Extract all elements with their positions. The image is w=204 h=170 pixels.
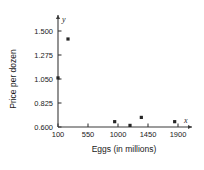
axes xyxy=(56,15,192,129)
x-axis-variable-label: x xyxy=(183,116,188,125)
y-tick-label: 0.825 xyxy=(34,99,53,108)
data-point xyxy=(66,37,69,40)
x-axis-title: Eggs (in millions) xyxy=(92,144,157,154)
x-tick-label: 1900 xyxy=(170,130,187,139)
data-points xyxy=(56,37,176,127)
data-point xyxy=(140,116,143,119)
tick-marks xyxy=(58,31,178,127)
x-tick-label: 1450 xyxy=(140,130,157,139)
y-tick-label: 0.600 xyxy=(34,123,53,132)
y-tick-label: 1.275 xyxy=(34,51,53,60)
y-axis-variable-label: y xyxy=(61,15,66,24)
data-point xyxy=(56,76,59,79)
x-tick-labels: 100550100014501900 xyxy=(52,130,187,139)
y-axis-title: Price per dozen xyxy=(8,49,18,109)
data-point xyxy=(173,120,176,123)
y-tick-label: 1.500 xyxy=(34,27,53,36)
data-point xyxy=(128,124,131,127)
x-tick-label: 550 xyxy=(82,130,95,139)
y-tick-label: 1.050 xyxy=(34,75,53,84)
scatter-chart: 100550100014501900 0.6000.8251.0501.2751… xyxy=(0,0,204,170)
data-point xyxy=(113,120,116,123)
x-tick-label: 100 xyxy=(52,130,65,139)
plot-area: 100550100014501900 0.6000.8251.0501.2751… xyxy=(0,0,204,170)
y-tick-labels: 0.6000.8251.0501.2751.500 xyxy=(34,27,53,132)
x-tick-label: 1000 xyxy=(110,130,127,139)
